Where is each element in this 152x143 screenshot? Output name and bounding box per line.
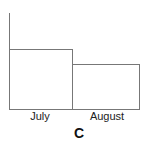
bar-july bbox=[10, 50, 73, 110]
chart-canvas bbox=[0, 0, 152, 143]
bar-august bbox=[73, 65, 140, 110]
x-tick-label-august: August bbox=[90, 111, 124, 122]
x-tick-label-july: July bbox=[30, 111, 50, 122]
bar-chart: July August C bbox=[0, 0, 152, 143]
chart-title: C bbox=[74, 126, 84, 140]
